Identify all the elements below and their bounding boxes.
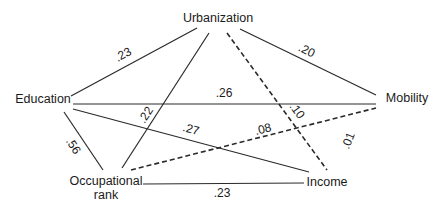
edge-label-mobility-income: .01 <box>339 130 358 151</box>
edge-occupational-mobility <box>131 108 376 170</box>
edge-label-urbanization-education: .23 <box>112 44 134 64</box>
node-occupational-rank-line2: rank <box>94 188 119 202</box>
edge-urbanization-education <box>71 28 197 96</box>
edge-label-education-occupational: .56 <box>63 135 84 157</box>
correlation-diagram: .23.20.22.10.26.27.56.08.01.23 Urbanizat… <box>0 0 437 210</box>
edge-label-urbanization-occupational: .22 <box>135 104 156 126</box>
edge-label-education-income: .27 <box>181 120 201 138</box>
edge-label-education-mobility: .26 <box>216 86 233 100</box>
edge-education-income <box>73 109 309 172</box>
edge-urbanization-occupational <box>122 33 209 168</box>
node-mobility: Mobility <box>386 91 429 105</box>
nodes-group: Urbanization Education Mobility Occupati… <box>15 11 429 202</box>
edge-label-occupational-income: .23 <box>214 186 231 200</box>
node-urbanization: Urbanization <box>183 11 253 25</box>
edge-urbanization-mobility <box>240 29 376 95</box>
node-income: Income <box>307 175 348 189</box>
edge-label-occupational-mobility: .08 <box>253 120 273 138</box>
node-education: Education <box>15 92 71 106</box>
edge-occupational-income <box>143 183 304 184</box>
node-occupational-rank-line1: Occupational <box>70 174 143 188</box>
edges-group <box>64 28 376 184</box>
